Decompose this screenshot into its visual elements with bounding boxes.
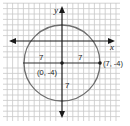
center-point-label: (0, -4) bbox=[37, 68, 58, 77]
y-axis-label: y bbox=[53, 5, 58, 15]
down-radius-label: 7 bbox=[65, 81, 70, 90]
coordinate-plane-diagram: y x 7 7 7 (0, -4) (7, -4) bbox=[0, 0, 130, 126]
left-radius-label: 7 bbox=[39, 53, 44, 62]
edge-point-label: (7, -4) bbox=[103, 59, 124, 68]
y-axis-up-arrow-icon bbox=[59, 6, 65, 13]
center-point bbox=[60, 61, 64, 65]
x-axis-label: x bbox=[109, 42, 114, 52]
right-radius-label: 7 bbox=[78, 53, 83, 62]
edge-point bbox=[98, 61, 102, 65]
